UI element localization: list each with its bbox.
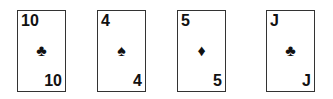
club-icon: ♣ — [36, 43, 47, 59]
club-icon: ♣ — [285, 43, 296, 59]
card-j-clubs[interactable]: J ♣ J — [266, 10, 315, 92]
card-rank-top: 5 — [181, 12, 190, 30]
card-rank-top: 4 — [101, 12, 110, 30]
card-rank-bottom: 5 — [213, 72, 222, 90]
diamond-icon: ♦ — [197, 43, 205, 59]
spade-icon: ♠ — [117, 43, 126, 59]
card-rank-top: 10 — [21, 12, 39, 30]
card-rank-top: J — [270, 12, 279, 30]
card-10-clubs[interactable]: 10 ♣ 10 — [17, 10, 66, 92]
card-5-diamonds[interactable]: 5 ♦ 5 — [177, 10, 226, 92]
card-4-spades[interactable]: 4 ♠ 4 — [97, 10, 146, 92]
card-rank-bottom: 10 — [44, 72, 62, 90]
card-rank-bottom: J — [302, 72, 311, 90]
card-rank-bottom: 4 — [133, 72, 142, 90]
